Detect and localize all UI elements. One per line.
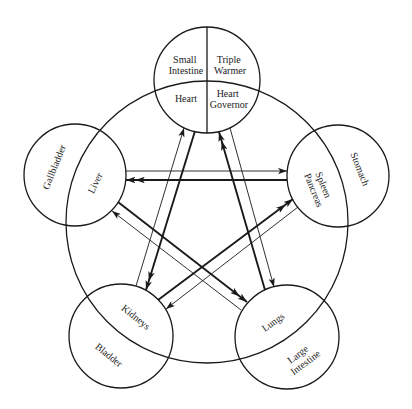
bottom-left-circle [69,284,173,388]
label-lungs: Lungs [260,310,287,333]
label-line: Heart [217,88,239,99]
bottom-right-node: Lungs Large Intestine [235,285,339,389]
left-node: Gallbladder Liver [24,124,126,226]
arrow-kidneys-to-heart [136,128,184,286]
label-line: Warmer [214,65,247,76]
label-line: Governor [210,99,249,110]
label-bladder: Bladder [93,341,125,370]
arrow-heart-governor-to-lungs [230,128,274,287]
left-circle [24,124,126,226]
label-stomach: Stomach [348,151,371,188]
label-heart-governor: Heart Governor [210,88,249,110]
right-node: Stomach Spleen Pancreas [287,125,389,227]
bottom-left-node: Kidneys Bladder [69,284,173,388]
diagram-svg: Small Intestine Triple Warmer Heart Hear… [0,0,412,409]
arrow-lungs-to-liver [112,211,241,310]
label-line: Intestine [169,65,204,76]
label-small-intestine: Small Intestine [169,54,204,76]
label-triple-warmer: Triple Warmer [214,54,247,76]
label-gallbladder: Gallbladder [40,142,68,191]
arrow-heart-to-kidneys [146,131,195,290]
top-node: Small Intestine Triple Warmer Heart Hear… [154,27,260,133]
label-spleen-pancreas: Spleen Pancreas [302,167,336,208]
arrow-spleen-to-kidneys [166,207,298,309]
label-large-intestine: Large Intestine [282,339,323,378]
label-line: Triple [217,54,242,65]
organ-cycle-diagram: Small Intestine Triple Warmer Heart Hear… [0,0,412,409]
label-heart: Heart [175,93,197,104]
arrow-lungs-to-heart-governor [219,132,265,290]
label-kidneys: Kidneys [120,302,153,332]
label-liver: Liver [85,170,105,195]
bottom-right-circle [235,285,339,389]
label-line: Small [173,54,197,65]
